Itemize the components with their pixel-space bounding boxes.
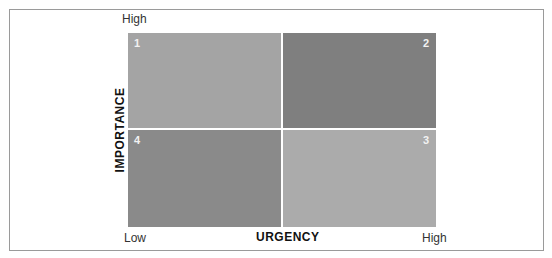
quadrant-4: 4 — [128, 130, 281, 227]
y-axis-high-label: High — [122, 12, 147, 26]
quadrant-number: 3 — [423, 134, 429, 146]
quadrant-2: 2 — [283, 33, 436, 128]
quadrant-3: 3 — [283, 130, 436, 227]
y-axis-title: IMPORTANCE — [113, 88, 127, 173]
quadrant-number: 1 — [134, 37, 140, 49]
x-axis-title: URGENCY — [256, 230, 320, 244]
quadrant-grid: 1 2 3 4 — [128, 33, 436, 227]
x-axis-low-label: Low — [124, 231, 146, 245]
x-axis-high-label: High — [422, 231, 447, 245]
quadrant-1: 1 — [128, 33, 281, 128]
quadrant-number: 4 — [134, 134, 140, 146]
quadrant-number: 2 — [423, 37, 429, 49]
